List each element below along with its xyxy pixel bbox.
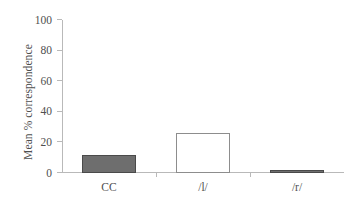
y-tick-label: 0 <box>46 167 52 179</box>
x-tick <box>156 173 157 177</box>
bar-r <box>270 170 324 173</box>
y-tick-label: 40 <box>41 105 53 117</box>
y-tick: 0 <box>57 172 62 173</box>
y-tick: 100 <box>57 19 62 20</box>
x-category-label: /l/ <box>198 181 208 193</box>
x-category-label: /r/ <box>292 181 302 193</box>
y-tick-label: 100 <box>35 14 52 26</box>
y-tick-label: 60 <box>41 75 53 87</box>
bar-chart-figure: Mean % correspondence 020406080100 CC/l/… <box>0 0 355 210</box>
x-category-label: CC <box>101 181 116 193</box>
bar-cc <box>82 155 136 173</box>
y-tick: 80 <box>57 50 62 51</box>
y-tick-label: 80 <box>41 44 53 56</box>
plot-area: 020406080100 <box>62 20 344 173</box>
y-axis-line <box>62 20 63 173</box>
x-tick <box>250 173 251 177</box>
bar-l <box>176 133 230 173</box>
y-axis-title: Mean % correspondence <box>22 22 34 182</box>
y-tick: 20 <box>57 141 62 142</box>
y-tick-label: 20 <box>41 136 53 148</box>
y-tick: 40 <box>57 111 62 112</box>
y-tick: 60 <box>57 80 62 81</box>
